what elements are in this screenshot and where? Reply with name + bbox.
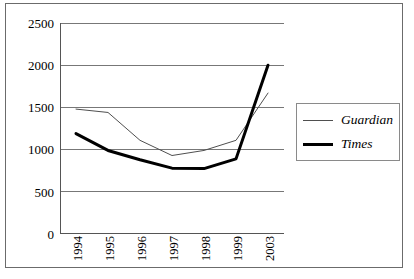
x-tick-label: 1998 bbox=[200, 236, 213, 261]
legend-entry-times: Times bbox=[303, 135, 373, 153]
chart-legend: Guardian Times bbox=[296, 103, 400, 161]
y-tick-label: 2500 bbox=[28, 17, 54, 30]
x-tick-label: 1994 bbox=[72, 236, 85, 261]
legend-label-guardian: Guardian bbox=[341, 113, 393, 127]
x-tick-label: 1999 bbox=[232, 236, 245, 261]
x-axis-spine bbox=[60, 234, 284, 235]
legend-line-swatch-guardian bbox=[303, 120, 333, 121]
x-tick-label: 1995 bbox=[104, 236, 117, 261]
y-tick-label: 1500 bbox=[28, 101, 54, 114]
legend-entry-guardian: Guardian bbox=[303, 111, 393, 129]
gridlines bbox=[60, 24, 284, 192]
legend-line-swatch-times bbox=[303, 143, 333, 146]
chart-figure: 2500 2000 1500 1000 500 0 bbox=[0, 0, 414, 279]
x-tick-label: 1996 bbox=[136, 236, 149, 261]
y-axis-tick-labels: 2500 2000 1500 1000 500 0 bbox=[10, 23, 54, 234]
y-tick-label: 2000 bbox=[28, 59, 54, 72]
y-tick-label: 500 bbox=[35, 186, 55, 199]
plot-canvas bbox=[60, 23, 284, 234]
x-tick-label: 1997 bbox=[168, 236, 181, 261]
legend-label-times: Times bbox=[341, 137, 373, 151]
x-tick-label: 2003 bbox=[264, 236, 277, 261]
y-axis-spine bbox=[60, 23, 61, 234]
y-tick-label: 0 bbox=[48, 228, 55, 241]
x-axis-tick-labels: 1994 1995 1996 1997 1998 1999 2003 bbox=[60, 236, 284, 276]
series-line-times bbox=[76, 65, 268, 168]
y-tick-label: 1000 bbox=[28, 143, 54, 156]
plot-area bbox=[60, 23, 284, 234]
